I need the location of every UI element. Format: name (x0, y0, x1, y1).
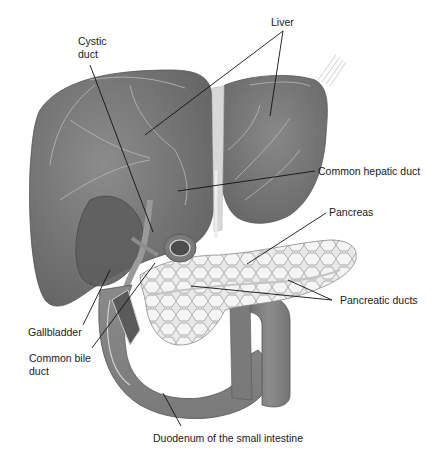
ligament-strands (318, 55, 346, 86)
label-common-bile-duct-line2: duct (29, 365, 91, 378)
digestive-organs-diagram (0, 0, 440, 454)
label-cystic-duct: Cystic duct (78, 35, 107, 61)
liver-left-lobe (220, 75, 327, 223)
label-gallbladder: Gallbladder (28, 326, 82, 339)
label-pancreas: Pancreas (329, 206, 373, 219)
falciform-gap (212, 86, 224, 232)
label-common-bile-duct-line1: Common bile (29, 352, 91, 365)
label-cystic-duct-line1: Cystic (78, 35, 107, 48)
label-duodenum: Duodenum of the small intestine (153, 432, 303, 445)
label-common-bile-duct: Common bile duct (29, 352, 91, 378)
label-cystic-duct-line2: duct (78, 48, 107, 61)
label-pancreatic-ducts: Pancreatic ducts (340, 294, 418, 307)
label-liver: Liver (271, 16, 294, 29)
jejunum-stem (230, 300, 252, 400)
label-common-hepatic-duct: Common hepatic duct (318, 165, 420, 178)
portal-vein-lumen (170, 240, 190, 256)
